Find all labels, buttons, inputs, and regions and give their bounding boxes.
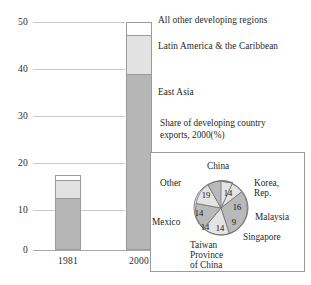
inset-title-line-1: Share of developing country (160, 118, 310, 130)
bar-2000-segment-east-asia (126, 74, 152, 250)
legend-label-all-other-regions: All other developing regions (158, 15, 267, 25)
gridline-20 (33, 163, 125, 164)
pie-label-taiwan-1: Taiwan (190, 240, 217, 251)
y-tick-label-50: 50 (6, 17, 28, 27)
y-tick-label-20: 20 (6, 158, 28, 168)
bar-1981 (55, 175, 81, 250)
gridline-40 (33, 69, 125, 70)
pie-value-china: 14 (224, 188, 233, 198)
bar-1981-segment-latin-america (55, 180, 81, 199)
pie-label-korea-2: Rep. (254, 188, 271, 199)
inset-title-line-2: exports, 2000(%) (160, 130, 310, 142)
bar-2000-segment-latin-america (126, 35, 152, 75)
pie-value-korea: 16 (233, 202, 242, 212)
y-tick-label-30: 30 (6, 111, 28, 121)
pie-label-taiwan-3: of China (190, 260, 222, 271)
y-tick-label-10: 10 (6, 205, 28, 215)
pie-value-singapore: 14 (216, 223, 225, 233)
pie-label-taiwan-2: Province (190, 250, 223, 261)
pie-value-malaysia: 9 (232, 217, 236, 227)
pie-label-singapore: Singapore (243, 232, 281, 243)
gridline-30 (33, 116, 125, 117)
pie-chart: 14 16 9 14 14 14 19 China Korea, Rep. Ma… (150, 152, 305, 272)
pie-value-other: 19 (202, 190, 211, 200)
bar-2000 (126, 22, 152, 250)
bar-2000-segment-all-other (126, 22, 152, 36)
pie-label-other: Other (160, 178, 181, 189)
legend-label-east-asia: East Asia (158, 87, 194, 97)
inset-chart-title: Share of developing country exports, 200… (160, 118, 310, 141)
x-tick-label-1981: 1981 (48, 256, 88, 266)
pie-value-taiwan: 14 (201, 222, 210, 232)
y-tick-label-40: 40 (6, 64, 28, 74)
y-tick-label-0: 0 (6, 245, 28, 255)
x-axis-baseline (33, 250, 155, 251)
legend-label-latin-america: Latin America & the Caribbean (158, 41, 278, 51)
pie-label-korea: Korea, (254, 178, 279, 189)
gridline-50 (33, 22, 125, 23)
pie-label-mexico: Mexico (152, 217, 180, 228)
bar-1981-segment-east-asia (55, 198, 81, 250)
chart-root: 50 40 30 20 10 0 1981 2000 All other dev… (0, 0, 311, 285)
pie-value-mexico: 14 (195, 208, 204, 218)
pie-label-china: China (207, 161, 229, 172)
pie-label-malaysia: Malaysia (255, 212, 289, 223)
